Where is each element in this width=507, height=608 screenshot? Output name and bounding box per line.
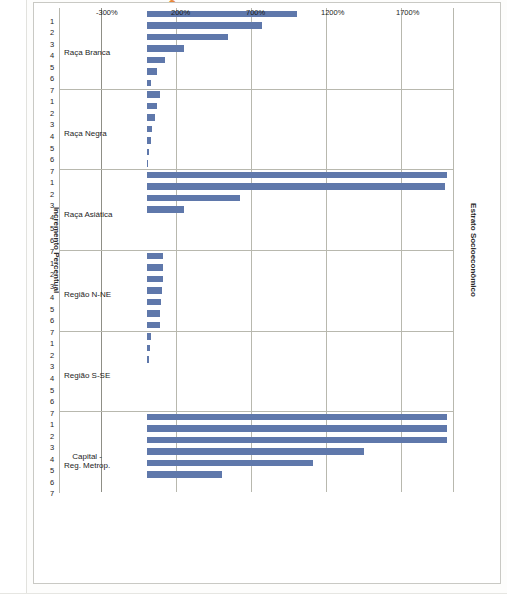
strata-tick-label: 1 xyxy=(50,17,54,26)
strata-tick-label: 1 xyxy=(50,97,54,106)
category-group-label: Raça Branca xyxy=(64,48,110,57)
category-separator xyxy=(102,250,454,251)
bar xyxy=(147,172,447,178)
strata-tick-label: 4 xyxy=(50,455,54,464)
bar xyxy=(147,471,222,477)
bar xyxy=(147,80,151,86)
value-tick-label: 1700% xyxy=(396,8,419,17)
strata-tick-label: 2 xyxy=(50,351,54,360)
plot-inner xyxy=(102,8,454,492)
strata-tick-label: 7 xyxy=(50,409,54,418)
category-group-label: Região S-SE xyxy=(64,371,110,380)
strata-tick-label: 2 xyxy=(50,109,54,118)
value-tick-label: 700% xyxy=(246,8,265,17)
category-group-label: Raça Negra xyxy=(64,129,107,138)
strata-tick-label: 3 xyxy=(50,282,54,291)
strata-tick-label: 1 xyxy=(50,420,54,429)
bar xyxy=(147,68,157,74)
strata-tick-label: 4 xyxy=(50,293,54,302)
bar xyxy=(147,322,160,328)
strata-tick-label: 1 xyxy=(50,339,54,348)
strata-tick-label: 5 xyxy=(50,63,54,72)
strata-tick-label: 6 xyxy=(50,316,54,325)
plot-area xyxy=(102,8,454,492)
bar xyxy=(147,276,163,282)
bar xyxy=(147,356,149,362)
bar xyxy=(147,57,165,63)
bar xyxy=(147,414,447,420)
bar xyxy=(147,183,445,189)
category-separator xyxy=(102,89,454,90)
bar xyxy=(147,425,447,431)
strata-tick-label: 5 xyxy=(50,386,54,395)
scanned-page: Painel A Estrato Socioeconômico Incremen… xyxy=(0,0,507,608)
strata-tick-label: 3 xyxy=(50,443,54,452)
bar xyxy=(147,264,163,270)
bar xyxy=(147,34,228,40)
strata-tick-label: 3 xyxy=(50,40,54,49)
bar xyxy=(147,149,149,155)
strata-tick-label: 4 xyxy=(50,374,54,383)
strata-tick-label: 1 xyxy=(50,178,54,187)
strata-tick-label: 7 xyxy=(50,489,54,498)
bar xyxy=(147,333,151,339)
bar xyxy=(147,137,151,143)
category-group-label: Raça Asiática xyxy=(64,210,112,219)
strata-tick-label: 5 xyxy=(50,144,54,153)
strata-tick-label: 7 xyxy=(50,328,54,337)
page-bottom-margin xyxy=(0,593,507,608)
bar xyxy=(147,22,262,28)
strata-tick-label: 3 xyxy=(50,120,54,129)
bar xyxy=(147,299,161,305)
plot-top-border xyxy=(453,8,454,492)
strata-tick-label: 4 xyxy=(50,132,54,141)
bar xyxy=(147,195,240,201)
strata-tick-label: 5 xyxy=(50,466,54,475)
bar xyxy=(147,91,160,97)
strata-tick-label: 5 xyxy=(50,305,54,314)
strata-tick-label: 4 xyxy=(50,51,54,60)
strata-tick-label: 1 xyxy=(50,259,54,268)
strata-tick-label: 7 xyxy=(50,86,54,95)
bar xyxy=(147,45,184,51)
value-tick-label: 1200% xyxy=(321,8,344,17)
category-axis-title: Estrato Socioeconômico xyxy=(469,0,478,500)
strata-tick-label: 7 xyxy=(50,167,54,176)
strata-tick-label: 3 xyxy=(50,362,54,371)
bar xyxy=(147,287,162,293)
strata-tick-label: 6 xyxy=(50,74,54,83)
chart-canvas: Estrato Socioeconômico Incremento Percen… xyxy=(36,0,476,500)
bar xyxy=(147,253,163,259)
strata-tick-label: 7 xyxy=(50,247,54,256)
strata-tick-label: 4 xyxy=(50,213,54,222)
strata-tick-label: 2 xyxy=(50,190,54,199)
category-separator xyxy=(102,411,454,412)
bar xyxy=(147,206,184,212)
strata-tick-label: 2 xyxy=(50,432,54,441)
strata-tick-label: 6 xyxy=(50,236,54,245)
bar xyxy=(147,448,364,454)
strata-tick-label: 6 xyxy=(50,155,54,164)
strata-tick-label: 2 xyxy=(50,28,54,37)
value-tick-label: 200% xyxy=(171,8,190,17)
bar xyxy=(147,460,313,466)
bar xyxy=(147,126,152,132)
strata-tick-label: 3 xyxy=(50,201,54,210)
bar xyxy=(147,103,157,109)
bar xyxy=(147,11,297,17)
strata-tick-label: 6 xyxy=(50,478,54,487)
category-group-label: Região N-NE xyxy=(64,290,111,299)
strata-tick-label: 2 xyxy=(50,270,54,279)
page-left-margin xyxy=(0,0,27,608)
bar xyxy=(147,310,160,316)
strata-tick-label: 6 xyxy=(50,397,54,406)
bar xyxy=(147,160,148,166)
bar xyxy=(147,437,447,443)
bar xyxy=(147,345,150,351)
strata-tick-label: 5 xyxy=(50,224,54,233)
category-group-label: Capital - Reg. Metrop. xyxy=(64,452,110,470)
bar xyxy=(147,114,155,120)
category-separator xyxy=(102,331,454,332)
category-separator xyxy=(102,169,454,170)
